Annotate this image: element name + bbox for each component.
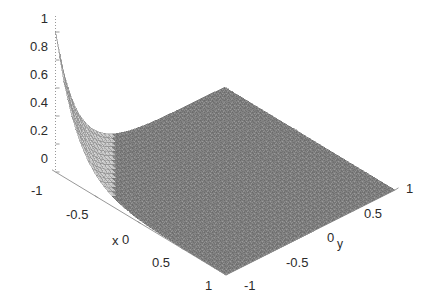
y-tick-label: 0 bbox=[327, 231, 334, 244]
x-tick-label: 1 bbox=[205, 279, 212, 292]
y-tick-label: -1 bbox=[244, 279, 256, 292]
z-tick-label: 1 bbox=[18, 12, 48, 25]
z-tick-label: 0 bbox=[18, 152, 48, 165]
z-tick-label: 0.8 bbox=[12, 40, 48, 53]
x-tick-label: -0.5 bbox=[66, 208, 88, 221]
y-axis-label: y bbox=[337, 238, 343, 250]
x-tick-label: -1 bbox=[31, 184, 43, 197]
surface-plot-figure: 1 0.8 0.6 0.4 0.2 0 -1 -0.5 0 0.5 1 x -1… bbox=[0, 0, 434, 302]
x-tick-label: 0.5 bbox=[152, 256, 170, 269]
surface-plot-canvas bbox=[0, 0, 434, 302]
z-tick-label: 0.4 bbox=[12, 96, 48, 109]
x-axis-label: x bbox=[112, 234, 119, 247]
y-tick-label: -0.5 bbox=[286, 256, 308, 269]
surface-mesh bbox=[56, 32, 396, 275]
z-tick-label: 0.6 bbox=[12, 68, 48, 81]
x-tick-label: 0 bbox=[122, 233, 129, 246]
y-tick-label: 1 bbox=[406, 182, 413, 195]
y-tick-label: 0.5 bbox=[364, 207, 382, 220]
z-tick-label: 0.2 bbox=[12, 124, 48, 137]
